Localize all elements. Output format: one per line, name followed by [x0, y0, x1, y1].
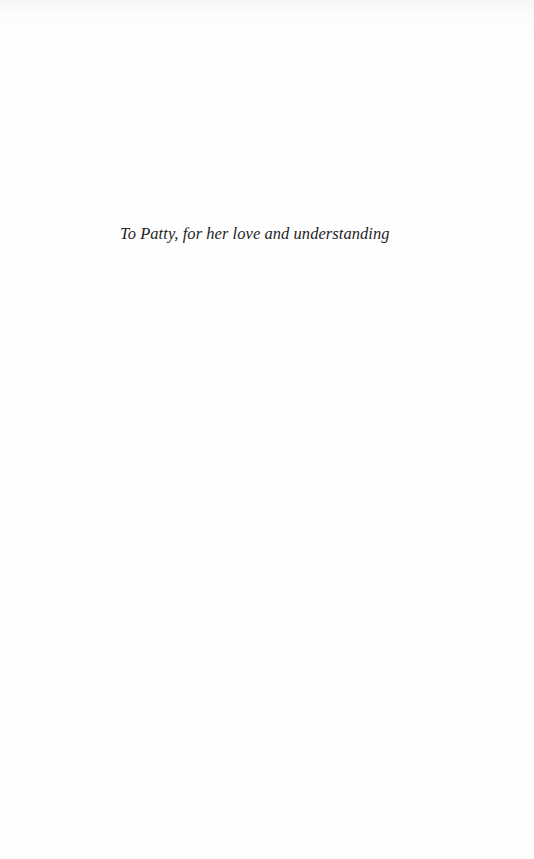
book-page: To Patty, for her love and understanding: [0, 0, 534, 859]
dedication-text: To Patty, for her love and understanding: [120, 224, 390, 244]
